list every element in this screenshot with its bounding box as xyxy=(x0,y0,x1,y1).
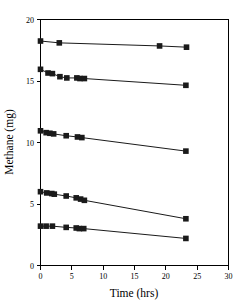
data-point-marker xyxy=(57,74,63,80)
data-point-marker xyxy=(157,43,163,49)
data-point-marker xyxy=(82,76,88,82)
data-point-marker xyxy=(63,133,69,139)
y-tick-label: 0 xyxy=(30,262,34,271)
data-point-marker xyxy=(79,135,85,141)
data-point-marker xyxy=(81,226,87,232)
y-tick-label: 5 xyxy=(30,200,34,209)
data-point-marker xyxy=(43,223,49,229)
y-axis-tick-labels: 05101520 xyxy=(26,16,34,271)
data-point-marker xyxy=(50,71,56,77)
x-axis-tick-labels: 051015202530 xyxy=(39,272,233,281)
data-point-marker xyxy=(82,198,88,204)
data-point-marker xyxy=(38,223,44,229)
x-tick-label: 10 xyxy=(99,272,107,281)
data-point-marker xyxy=(63,225,69,231)
series-line xyxy=(41,41,187,47)
x-tick-label: 5 xyxy=(70,272,74,281)
data-point-marker xyxy=(57,40,63,46)
series-markers-group xyxy=(38,38,190,241)
data-point-marker xyxy=(44,190,50,196)
x-tick-label: 30 xyxy=(225,272,233,281)
data-point-marker xyxy=(50,223,56,229)
data-point-marker xyxy=(183,148,189,154)
data-point-marker xyxy=(51,131,57,137)
y-tick-label: 15 xyxy=(26,77,34,86)
data-point-marker xyxy=(63,193,69,199)
x-axis-title: Time (hrs) xyxy=(110,287,159,300)
x-axis-ticks xyxy=(41,266,229,270)
data-point-marker xyxy=(184,44,190,50)
data-point-marker xyxy=(51,191,57,197)
series-line xyxy=(41,192,186,219)
x-tick-label: 25 xyxy=(193,272,201,281)
data-point-marker xyxy=(38,67,44,73)
data-point-marker xyxy=(38,38,44,44)
y-axis-title: Methane (mg) xyxy=(3,109,16,175)
series-line xyxy=(41,131,186,151)
x-tick-label: 0 xyxy=(39,272,43,281)
data-point-marker xyxy=(64,75,70,81)
data-point-marker xyxy=(183,236,189,242)
y-tick-label: 10 xyxy=(26,139,34,148)
series-lines-group xyxy=(41,41,187,238)
data-point-marker xyxy=(38,189,44,195)
y-tick-label: 20 xyxy=(26,16,34,25)
x-tick-label: 15 xyxy=(131,272,139,281)
x-tick-label: 20 xyxy=(162,272,170,281)
series-line xyxy=(41,226,186,238)
data-point-marker xyxy=(183,216,189,222)
scatter-plot-svg: 05101520 051015202530 Methane (mg) Time … xyxy=(0,0,247,307)
chart-figure: 05101520 051015202530 Methane (mg) Time … xyxy=(0,0,247,307)
data-point-marker xyxy=(38,128,44,134)
data-point-marker xyxy=(183,83,189,89)
